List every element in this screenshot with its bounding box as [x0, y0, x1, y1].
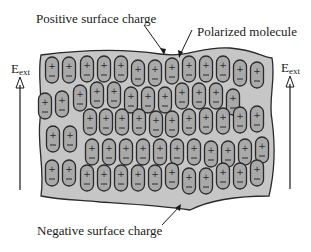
- plus-sign-icon: +: [139, 143, 147, 153]
- plus-sign-icon: +: [236, 167, 244, 177]
- plus-sign-icon: +: [173, 143, 181, 153]
- plus-sign-icon: +: [144, 91, 152, 101]
- plus-sign-icon: +: [156, 143, 164, 153]
- plus-sign-icon: +: [110, 86, 118, 96]
- plus-sign-icon: +: [134, 169, 142, 179]
- positive-surface-charge-label: Positive surface charge: [36, 12, 156, 25]
- plus-sign-icon: +: [202, 112, 210, 122]
- plus-sign-icon: +: [253, 110, 261, 120]
- plus-sign-icon: +: [229, 93, 237, 103]
- plus-sign-icon: +: [41, 97, 49, 107]
- plus-sign-icon: +: [190, 143, 198, 153]
- field-label-left: Eext: [11, 62, 30, 77]
- plus-sign-icon: +: [118, 113, 126, 123]
- plus-sign-icon: +: [219, 167, 227, 177]
- plus-sign-icon: +: [48, 164, 56, 174]
- plus-sign-icon: +: [212, 87, 220, 97]
- plus-sign-icon: +: [202, 172, 210, 182]
- plus-sign-icon: +: [219, 112, 227, 122]
- plus-sign-icon: +: [102, 113, 110, 123]
- plus-sign-icon: +: [135, 113, 143, 123]
- negative-surface-charge-label: Negative surface charge: [37, 224, 162, 237]
- plus-sign-icon: +: [207, 145, 215, 155]
- plus-sign-icon: +: [168, 167, 176, 177]
- plus-sign-icon: +: [134, 64, 142, 74]
- polarized-molecule-pointer: [180, 30, 192, 55]
- plus-sign-icon: +: [105, 143, 113, 153]
- plus-sign-icon: +: [224, 145, 232, 155]
- field-label-right: Eext: [281, 61, 300, 76]
- plus-sign-icon: +: [151, 169, 159, 179]
- plus-sign-icon: +: [127, 91, 135, 101]
- plus-sign-icon: +: [122, 143, 130, 153]
- plus-sign-icon: +: [65, 164, 73, 174]
- plus-sign-icon: +: [66, 130, 74, 140]
- plus-sign-icon: +: [88, 143, 96, 153]
- plus-sign-icon: +: [83, 169, 91, 179]
- plus-sign-icon: +: [185, 60, 193, 70]
- field-subscript: ext: [289, 66, 300, 76]
- plus-sign-icon: +: [100, 169, 108, 179]
- field-subscript: ext: [19, 67, 30, 77]
- plus-sign-icon: +: [152, 115, 160, 125]
- plus-sign-icon: +: [48, 61, 56, 71]
- plus-sign-icon: +: [241, 143, 249, 153]
- plus-sign-icon: +: [117, 60, 125, 70]
- field-symbol: E: [281, 60, 289, 75]
- plus-sign-icon: +: [65, 61, 73, 71]
- plus-sign-icon: +: [258, 141, 266, 151]
- plus-sign-icon: +: [195, 87, 203, 97]
- plus-sign-icon: +: [83, 60, 91, 70]
- plus-sign-icon: +: [253, 66, 261, 76]
- plus-sign-icon: +: [151, 64, 159, 74]
- plus-sign-icon: +: [202, 60, 210, 70]
- plus-sign-icon: +: [253, 164, 261, 174]
- plus-sign-icon: +: [185, 172, 193, 182]
- plus-sign-icon: +: [185, 113, 193, 123]
- field-symbol: E: [11, 61, 19, 76]
- polarized-molecule-label: Polarized molecule: [197, 25, 297, 38]
- plus-sign-icon: +: [236, 111, 244, 121]
- plus-sign-icon: +: [168, 62, 176, 72]
- plus-sign-icon: +: [178, 87, 186, 97]
- plus-sign-icon: +: [86, 113, 94, 123]
- plus-sign-icon: +: [236, 64, 244, 74]
- plus-sign-icon: +: [161, 91, 169, 101]
- plus-sign-icon: +: [100, 60, 108, 70]
- plus-sign-icon: +: [117, 169, 125, 179]
- plus-sign-icon: +: [76, 89, 84, 99]
- plus-sign-icon: +: [58, 95, 66, 105]
- plus-sign-icon: +: [93, 86, 101, 96]
- plus-sign-icon: +: [168, 115, 176, 125]
- plus-sign-icon: +: [219, 60, 227, 70]
- plus-sign-icon: +: [49, 130, 57, 140]
